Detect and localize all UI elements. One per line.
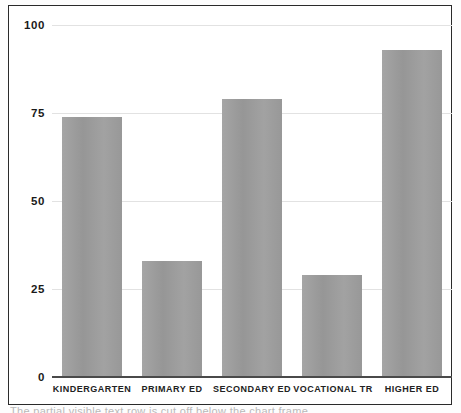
- clipped-caption-text: The partial visible text row is cut off …: [10, 405, 450, 413]
- ytick-label-25: 25: [9, 283, 45, 295]
- category-label-vocational-tr: Vocational Tr: [289, 384, 377, 395]
- bar-secondary-ed[interactable]: [222, 99, 282, 377]
- bar-texture: [142, 261, 202, 377]
- bar-texture: [222, 99, 282, 377]
- bar-kindergarten[interactable]: [62, 117, 122, 377]
- bar-texture: [62, 117, 122, 377]
- ytick-label-50: 50: [9, 195, 45, 207]
- category-label-secondary-ed: Secondary Ed: [208, 384, 296, 395]
- ytick-label-100: 100: [9, 19, 45, 31]
- category-label-kindergarten: Kindergarten: [47, 384, 137, 395]
- bar-higher-ed[interactable]: [382, 50, 442, 377]
- ytick-label-0: 0: [9, 371, 45, 383]
- bar-texture: [302, 275, 362, 377]
- bar-texture: [382, 50, 442, 377]
- x-axis-baseline: [52, 376, 452, 378]
- chart-frame: 100 75 50 25 0 Kindergarten: [8, 5, 452, 405]
- ytick-label-75: 75: [9, 107, 45, 119]
- bar-vocational-tr[interactable]: [302, 275, 362, 377]
- bar-primary-ed[interactable]: [142, 261, 202, 377]
- plot-area: 100 75 50 25 0 Kindergarten: [9, 6, 451, 404]
- category-label-higher-ed: Higher Ed: [372, 384, 452, 395]
- gridline-100: [52, 25, 452, 26]
- figure-container: 100 75 50 25 0 Kindergarten: [0, 0, 461, 413]
- category-label-primary-ed: Primary Ed: [129, 384, 215, 395]
